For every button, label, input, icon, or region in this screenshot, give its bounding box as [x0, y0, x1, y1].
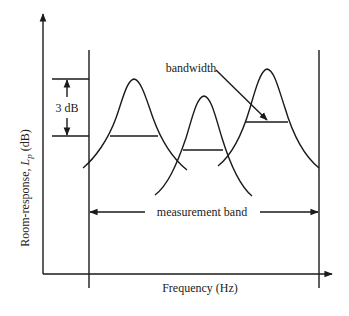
y-axis-label: Room-response, Lp (dB) — [18, 129, 34, 247]
level-difference-label: 3 dB — [55, 101, 78, 115]
bandwidth-label: bandwidth — [166, 61, 217, 75]
resonance-curve-1 — [83, 79, 187, 170]
resonance-curve-3 — [218, 69, 319, 168]
resonance-curve-2 — [155, 96, 252, 196]
x-axis-label: Frequency (Hz) — [162, 281, 238, 295]
measurement-band-label: measurement band — [157, 205, 247, 219]
room-response-diagram: 3 dB bandwidth measurement band Frequenc… — [0, 0, 349, 316]
